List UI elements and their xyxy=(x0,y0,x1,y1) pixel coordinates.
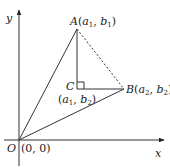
point-c-label: C xyxy=(66,80,75,93)
origin-coords: (0, 0) xyxy=(21,142,51,155)
origin-label: O xyxy=(7,142,16,155)
coordinate-diagram: y x O (0, 0) A(a1, b1) B(a2, b2) C (a1, … xyxy=(0,0,170,167)
point-c-coords: (a1, b2) xyxy=(58,93,96,107)
segment-ob xyxy=(19,89,124,140)
point-a-label: A(a1, b1) xyxy=(69,15,116,29)
x-axis-label: x xyxy=(155,147,162,160)
point-b-label: B(a2, b2) xyxy=(125,83,170,97)
y-axis-label: y xyxy=(5,12,13,25)
segment-ab-dashed xyxy=(77,29,124,89)
right-angle-marker xyxy=(77,82,84,89)
